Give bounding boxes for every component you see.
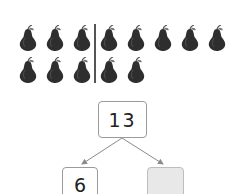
arrow-to-left-part xyxy=(82,138,122,164)
known-part-box: 6 xyxy=(62,167,98,194)
whole-number-box: 13 xyxy=(98,101,147,138)
unknown-part-answer-box[interactable] xyxy=(147,167,184,194)
arrow-to-right-part xyxy=(122,138,163,164)
bond-arrows xyxy=(0,0,243,194)
